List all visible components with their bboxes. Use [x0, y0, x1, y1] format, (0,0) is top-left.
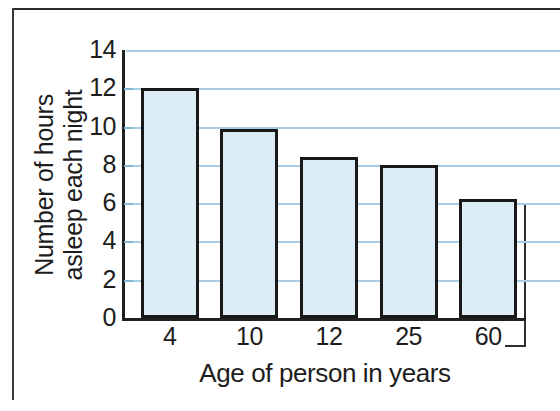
bar: [141, 88, 199, 318]
x-axis-line: [122, 318, 526, 321]
y-axis-tick-label: 12: [89, 75, 116, 100]
y-axis-title-line-1: Number of hours: [30, 90, 59, 281]
bar: [380, 165, 438, 318]
bar: [220, 129, 278, 319]
y-axis-tick-label: 2: [103, 267, 116, 292]
x-axis-tick-label: 25: [380, 324, 438, 349]
y-axis-tick-label: 10: [89, 114, 116, 139]
x-axis-tick-label: 60: [459, 324, 517, 349]
x-axis-title: Age of person in years: [126, 358, 524, 389]
x-axis-tick-label: 10: [220, 324, 278, 349]
y-axis-title-line-2: asleep each night: [59, 90, 88, 281]
y-axis-tick-label: 4: [103, 228, 116, 253]
y-axis-tick-label: 14: [89, 37, 116, 62]
y-axis-title: Number of hours asleep each night: [28, 30, 90, 340]
figure-frame-right: [524, 205, 526, 347]
x-axis-tick-label: 4: [141, 324, 199, 349]
y-axis-tick-label: 6: [103, 190, 116, 215]
chart-bars: [126, 50, 524, 318]
y-axis-tick-label: 0: [103, 305, 116, 330]
y-axis-tick-label: 8: [103, 152, 116, 177]
x-axis-tick-label: 12: [300, 324, 358, 349]
bar-chart-figure: 14121086420 410122560 Age of person in y…: [0, 0, 560, 411]
bar: [459, 199, 517, 318]
figure-frame-left: [12, 8, 14, 400]
bar: [300, 157, 358, 318]
